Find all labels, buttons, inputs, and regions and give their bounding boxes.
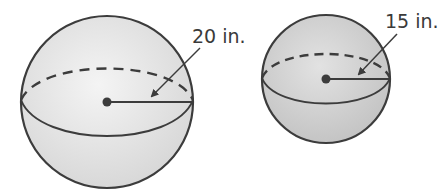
large-sphere-radius-label: 20 in.: [192, 25, 246, 47]
two-spheres-diagram: 20 in. 15 in.: [0, 0, 447, 196]
small-sphere: 15 in.: [262, 10, 439, 143]
large-sphere: 20 in.: [21, 16, 246, 188]
small-sphere-radius-label: 15 in.: [385, 10, 439, 32]
